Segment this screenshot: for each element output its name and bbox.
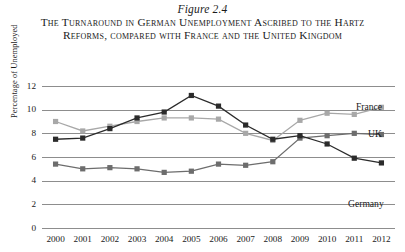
figure-number: Figure 2.4: [0, 3, 405, 16]
data-point-uk-2011: [352, 131, 357, 136]
plot-area: 024681012 200020012002200320042005200620…: [42, 86, 395, 228]
data-point-france-2007: [243, 131, 248, 136]
data-point-uk-2003: [134, 166, 139, 171]
data-point-germany-2011: [352, 156, 357, 161]
data-point-germany-2001: [80, 135, 85, 140]
data-point-germany-2003: [134, 115, 139, 120]
data-point-uk-2006: [216, 162, 221, 167]
data-point-germany-2006: [216, 104, 221, 109]
y-tick-label-8: 8: [14, 129, 36, 138]
data-point-uk-2010: [325, 133, 330, 138]
y-tick-label-10: 10: [14, 105, 36, 114]
data-point-germany-2008: [270, 137, 275, 142]
data-point-germany-2005: [189, 93, 194, 98]
data-point-uk-2004: [162, 170, 167, 175]
x-axis-line: [42, 228, 395, 229]
series-label-germany: Germany: [348, 199, 384, 209]
y-tick-label-12: 12: [14, 82, 36, 91]
figure-header: Figure 2.4 The Turnaround in German Unem…: [0, 0, 405, 42]
data-point-france-2011: [352, 112, 357, 117]
data-point-germany-2009: [297, 133, 302, 138]
data-point-france-2006: [216, 117, 221, 122]
data-point-uk-2008: [270, 159, 275, 164]
data-point-germany-2012: [379, 160, 384, 165]
data-point-germany-2010: [325, 141, 330, 146]
data-point-france-2010: [325, 111, 330, 116]
figure-number-text: Figure 2.4: [177, 3, 227, 15]
series-label-uk: UK: [368, 129, 382, 139]
data-point-germany-2000: [53, 137, 58, 142]
data-point-germany-2004: [162, 109, 167, 114]
data-point-uk-2002: [107, 165, 112, 170]
chart-container: Percentage of Unemployed 024681012 20002…: [0, 72, 405, 252]
x-tick-label-2012: 2012: [361, 234, 401, 244]
data-point-uk-2007: [243, 163, 248, 168]
data-point-france-2000: [53, 119, 58, 124]
y-tick-label-2: 2: [14, 200, 36, 209]
data-point-uk-2005: [189, 169, 194, 174]
y-tick-label-4: 4: [14, 176, 36, 185]
y-tick-label-0: 0: [14, 224, 36, 233]
figure-caption: The Turnaround in German Unemployment As…: [0, 16, 405, 42]
y-axis-title: Percentage of Unemployed: [10, 8, 19, 118]
series-lines: [42, 86, 395, 228]
y-tick-label-6: 6: [14, 153, 36, 162]
data-point-france-2009: [297, 118, 302, 123]
data-point-france-2001: [80, 128, 85, 133]
data-point-uk-2001: [80, 166, 85, 171]
data-point-uk-2000: [53, 162, 58, 167]
data-point-germany-2007: [243, 122, 248, 127]
data-point-france-2004: [162, 115, 167, 120]
data-point-france-2005: [189, 115, 194, 120]
data-point-germany-2002: [107, 126, 112, 131]
series-label-france: France: [356, 102, 382, 112]
